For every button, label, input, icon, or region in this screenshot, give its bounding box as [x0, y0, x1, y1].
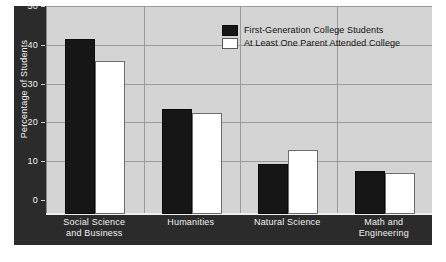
y-tick-mark-40: [41, 45, 45, 46]
y-tick-label-30: 30: [12, 80, 38, 89]
bar-chart-screenshot: Percentage of Students 01020304050 Socia…: [0, 0, 446, 262]
bar-parent-attended-0: [95, 61, 125, 214]
y-tick-label-10: 10: [12, 157, 38, 166]
legend-item-0: First-Generation College Students: [222, 24, 400, 36]
bar-first-generation-2: [258, 164, 288, 214]
bar-parent-attended-3: [385, 173, 415, 214]
category-separator-1: [144, 6, 145, 214]
bar-first-generation-0: [65, 39, 95, 214]
y-tick-mark-50: [41, 6, 45, 7]
x-axis-label-line: Social Science: [46, 217, 143, 228]
y-tick-label-50: 50: [12, 2, 38, 11]
x-axis-label-0: Social Scienceand Business: [46, 217, 143, 239]
chart-legend: First-Generation College StudentsAt Leas…: [222, 24, 400, 49]
x-axis-label-line: Engineering: [336, 228, 433, 239]
y-tick-mark-10: [41, 161, 45, 162]
x-axis-label-line: and Business: [46, 228, 143, 239]
x-axis-category-labels: Social Scienceand BusinessHumanitiesNatu…: [46, 216, 432, 244]
x-axis-label-line: Humanities: [143, 217, 240, 228]
bar-first-generation-1: [162, 109, 192, 214]
legend-label-1: At Least One Parent Attended College: [244, 38, 400, 48]
legend-swatch-parent-attended: [222, 38, 238, 49]
bar-parent-attended-1: [192, 113, 222, 214]
x-axis-label-3: Math andEngineering: [336, 217, 433, 239]
y-tick-mark-20: [41, 122, 45, 123]
y-tick-mark-30: [41, 84, 45, 85]
legend-swatch-first-generation: [222, 25, 238, 36]
bar-first-generation-3: [355, 171, 385, 214]
y-tick-label-0: 0: [12, 196, 38, 205]
x-axis-label-1: Humanities: [143, 217, 240, 228]
bar-parent-attended-2: [288, 150, 318, 214]
legend-label-0: First-Generation College Students: [244, 25, 383, 35]
x-axis-label-2: Natural Science: [239, 217, 336, 228]
x-axis-label-line: Math and: [336, 217, 433, 228]
y-tick-mark-0: [41, 200, 45, 201]
y-tick-label-40: 40: [12, 41, 38, 50]
x-axis-label-line: Natural Science: [239, 217, 336, 228]
y-tick-label-20: 20: [12, 118, 38, 127]
legend-item-1: At Least One Parent Attended College: [222, 37, 400, 49]
